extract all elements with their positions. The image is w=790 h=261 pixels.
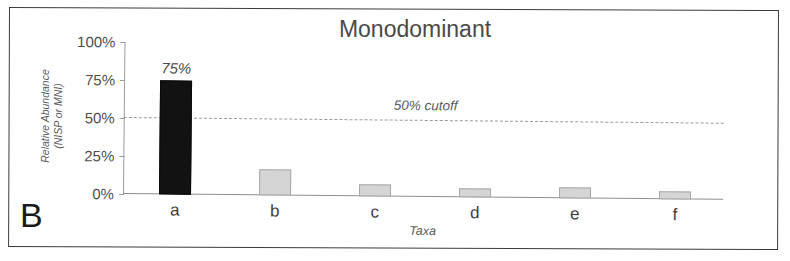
y-tick-label: 25% [84,147,114,164]
y-axis-title-line2: (NISP or MNI) [52,69,65,163]
y-tick-mark [119,194,124,195]
y-axis-ticks: 0%25%50%75%100% [124,42,724,48]
bar-value-label-a: 75% [161,59,191,76]
y-tick-mark [119,156,124,157]
y-tick-label: 0% [92,185,114,202]
bar-a: 75%a [159,80,191,194]
y-tick-label: 75% [85,71,115,88]
chart-title: Monodominant [225,16,605,43]
bar-b: b [259,169,290,195]
bar-d: d [459,188,490,197]
x-tick-label-f: f [672,205,677,225]
x-tick-label-a: a [170,200,180,220]
x-tick-label-c: c [370,202,379,222]
figure-panel-b: B Monodominant Relative Abundance (NISP … [0,0,790,261]
x-tick-label-e: e [570,204,580,224]
y-tick-label: 50% [85,109,115,126]
y-axis-title: Relative Abundance (NISP or MNI) [34,38,70,194]
bar-series: 75%abcdef [124,42,724,48]
y-tick-mark [120,42,125,43]
cutoff-dashed-line [124,117,724,124]
cutoff-annotation: 50% cutoff [124,42,724,48]
bar-f: f [659,192,690,200]
y-tick-mark [120,118,125,119]
x-tick-label-d: d [470,203,480,223]
y-tick-mark [120,80,125,81]
x-tick-label-b: b [270,201,280,221]
cutoff-label: 50% cutoff [388,98,464,114]
plot-area: 0%25%50%75%100% 50% cutoff 75%abcdef Tax… [123,42,723,194]
y-axis-title-line1: Relative Abundance [39,69,51,163]
panel-letter-label: B [20,198,43,232]
bar-e: e [559,188,590,199]
y-tick-label: 100% [77,33,116,50]
bar-c: c [359,184,390,196]
